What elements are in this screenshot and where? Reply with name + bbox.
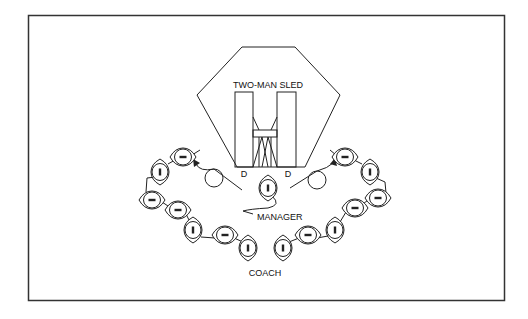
footballs-group xyxy=(139,148,391,261)
sled-label: TWO-MAN SLED xyxy=(233,80,304,90)
left-block-path xyxy=(196,164,242,190)
sled-area-hexagon xyxy=(197,47,340,167)
sled-pad-left xyxy=(235,92,253,167)
football-player-icon xyxy=(342,199,368,217)
defender-left-label: D xyxy=(241,169,248,179)
laces-icon xyxy=(159,169,161,176)
sled-crossbar xyxy=(253,130,277,137)
sled-brace xyxy=(271,117,277,130)
football-player-icon xyxy=(295,226,321,244)
laces-icon xyxy=(180,156,187,158)
sled-brace xyxy=(268,137,277,167)
football-player-icon xyxy=(184,217,202,243)
laces-icon xyxy=(375,197,382,199)
blocking-circle-left xyxy=(205,169,223,187)
laces-icon xyxy=(222,234,229,236)
laces-icon xyxy=(282,245,284,252)
coach-label: COACH xyxy=(249,268,282,278)
laces-icon xyxy=(369,169,371,176)
football-player-icon xyxy=(365,189,391,207)
laces-icon xyxy=(175,209,182,211)
football-player-icon xyxy=(139,191,165,209)
defender-right-label: D xyxy=(285,169,292,179)
laces-icon xyxy=(247,245,249,252)
sled-brace xyxy=(253,117,259,130)
laces-icon xyxy=(334,227,336,234)
manager-football-icon xyxy=(259,175,277,201)
blocking-circle-right xyxy=(308,171,326,189)
laces-icon xyxy=(342,156,349,158)
laces-icon xyxy=(149,199,156,201)
football-player-icon xyxy=(361,159,379,185)
football-player-icon xyxy=(151,159,169,185)
laces-icon xyxy=(305,234,312,236)
football-player-icon xyxy=(212,226,238,244)
sled-brace xyxy=(253,137,262,167)
football-player-icon xyxy=(326,217,344,243)
two-man-sled xyxy=(235,92,296,167)
laces-icon xyxy=(192,227,194,234)
drill-diagram: TWO-MAN SLED D D MANAGER COACH xyxy=(0,0,528,319)
laces-icon xyxy=(352,207,359,209)
laces-icon xyxy=(267,185,269,192)
football-player-icon xyxy=(239,235,257,261)
sled-pad-right xyxy=(277,92,296,167)
football-player-icon xyxy=(274,235,292,261)
football-player-icon xyxy=(170,148,196,166)
manager-label: MANAGER xyxy=(257,212,303,222)
